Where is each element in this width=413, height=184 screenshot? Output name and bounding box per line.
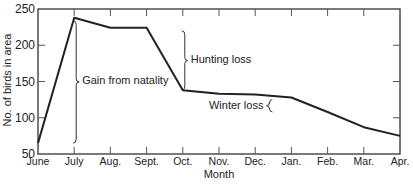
x-tick-label: June bbox=[27, 155, 50, 167]
y-tick-label: 100 bbox=[15, 111, 35, 125]
population-line-chart: 50100150200250 JuneJulyAug.Sept.Oct.Nov.… bbox=[0, 0, 413, 184]
x-tick-label: Aug. bbox=[100, 155, 122, 167]
x-tick-label: Dec. bbox=[244, 155, 266, 167]
curly-brace bbox=[182, 31, 188, 90]
curly-brace bbox=[73, 21, 79, 143]
annotation-label: Gain from natality bbox=[82, 74, 169, 86]
x-tick-label: Jan. bbox=[281, 155, 301, 167]
x-tick-label: Feb. bbox=[317, 155, 338, 167]
annotation-label: Winter loss bbox=[209, 99, 264, 111]
x-tick-label: Oct. bbox=[173, 155, 192, 167]
annotations: Gain from natalityHunting lossWinter los… bbox=[73, 21, 272, 143]
curly-brace bbox=[266, 99, 272, 112]
x-tick-label: Sept. bbox=[134, 155, 159, 167]
y-axis-label: No. of birds in area bbox=[1, 33, 13, 127]
annotation-label: Hunting loss bbox=[191, 53, 252, 65]
x-tick-label: Apr. bbox=[391, 155, 410, 167]
x-tick-label: Nov. bbox=[209, 155, 230, 167]
x-tick-label: Mar. bbox=[354, 155, 374, 167]
x-axis-label: Month bbox=[204, 168, 235, 180]
y-tick-label: 250 bbox=[15, 2, 35, 16]
y-tick-label: 200 bbox=[15, 38, 35, 52]
x-axis-ticks: JuneJulyAug.Sept.Oct.Nov.Dec.Jan.Feb.Mar… bbox=[27, 9, 410, 167]
y-tick-label: 150 bbox=[15, 75, 35, 89]
x-tick-label: July bbox=[65, 155, 84, 167]
